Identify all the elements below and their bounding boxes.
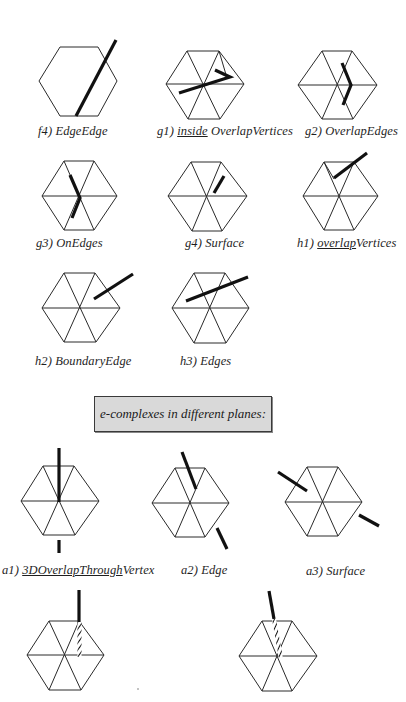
section-header-banner: e-complexes in different planes: [94,396,272,432]
diagram-canvas [0,0,406,702]
label-underlined: inside [177,124,207,138]
panel-g2-figure [298,51,377,119]
panel-g3-figure [42,161,117,230]
label-a1: a1) 3DOverlapThroughVertex [2,563,155,578]
hatched-segment [78,622,82,657]
segment-thick [269,591,274,619]
label-prefix: g1) [157,124,177,138]
segment-thick [182,452,196,489]
segment-thick [217,528,227,549]
label-h2: h2) BoundaryEdge [35,354,131,369]
label-text: OverlapVertices [208,124,293,138]
label-g4: g4) Surface [185,236,244,251]
segment-thick [76,40,116,116]
label-text: Vertex [123,563,155,577]
panel-g4-figure [168,162,247,231]
label-f4: f4) EdgeEdge [38,124,108,139]
label-text: OverlapEdges [325,124,398,138]
label-text: Surface [326,564,365,578]
label-prefix: h2) [35,354,55,368]
panel-h3-figure [172,273,249,343]
label-prefix: g3) [36,236,56,250]
label-a3: a3) Surface [306,564,365,579]
section-header-text: e-complexes in different planes: [100,406,266,422]
panel-g1-figure [166,51,244,119]
segment-thick [214,176,224,193]
panel-a4-figure [27,590,104,690]
label-prefix: g2) [305,124,325,138]
label-prefix: h3) [180,354,200,368]
label-prefix: a1) [2,563,22,577]
stray-dot [137,688,139,690]
segment-thick [359,515,379,526]
label-text: Surface [205,236,244,250]
segment-thick [186,277,248,301]
label-h3: h3) Edges [180,354,231,369]
label-text: OnEdges [56,236,103,250]
segment-thick [179,70,230,93]
label-text: Vertices [356,236,396,250]
label-underlined: 3DOverlapThrough [22,563,122,577]
label-prefix: f4) [38,124,55,138]
panel-a3-figure [278,467,379,536]
label-prefix: h1) [297,236,317,250]
label-text: EdgeEdge [55,124,107,138]
label-underlined: overlap [317,236,356,250]
label-prefix: a2) [181,563,201,577]
panel-h2-figure [42,273,133,342]
label-text: BoundaryEdge [55,354,131,368]
label-text: Edge [201,563,227,577]
label-g2: g2) OverlapEdges [305,124,398,139]
segment-thick [94,274,133,299]
label-text: Edges [200,354,231,368]
hatched-segment [272,619,283,658]
label-g3: g3) OnEdges [36,236,103,251]
panel-a1-figure [21,448,99,553]
panel-a5-figure [239,591,317,691]
label-prefix: g4) [185,236,205,250]
panel-a2-figure [152,452,229,549]
panel-h1-figure [303,153,378,230]
label-a2: a2) Edge [181,563,227,578]
label-prefix: a3) [306,564,326,578]
label-h1: h1) overlapVertices [297,236,396,251]
panel-f4-figure [39,40,117,116]
label-g1: g1) inside OverlapVertices [157,124,293,139]
